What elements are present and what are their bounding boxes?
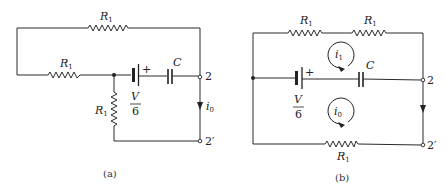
label-b-loop-i0: i0 [334,105,342,119]
label-b-plus: + [305,66,314,79]
caption-a: (a) [103,168,117,179]
label-b-source-numerator: V [294,93,303,106]
label-b-r1-top-left: R1 [299,14,313,28]
current-arrow-b [420,105,426,113]
loop-arrowhead-b-i1 [338,66,345,72]
resistor-b-top-left [288,30,322,36]
label-a-r1-left: R1 [59,57,73,71]
resistor-a-top [88,25,128,31]
current-arrow-a-i0 [197,102,203,110]
wire-b-top-right [386,33,423,78]
terminal-a-2 [198,75,202,79]
label-a-plus: + [142,63,151,76]
loop-arrowhead-b-i0 [338,122,345,128]
label-b-loop-i1: i1 [335,48,343,62]
label-b-r1-bottom: R1 [336,150,350,164]
circuit-figure: R1 R1 R1 + V 6 C 2 2′ i0 (a) [0,0,446,190]
label-a-source-denominator: 6 [132,105,139,118]
battery-a-negative-plate [132,68,135,82]
wire-a-left-loop [17,28,88,75]
label-b-capacitor: C [366,59,375,72]
label-a-r1-vertical: R1 [94,104,108,118]
circuit-a: R1 R1 R1 + V 6 C 2 2′ i0 (a) [17,10,215,179]
label-a-terminal-2: 2 [205,70,212,83]
wire-b-cap-terminal [363,79,421,80]
caption-b: (b) [335,172,349,183]
terminal-b-2prime [421,143,425,147]
battery-b-negative-plate [295,71,298,85]
resistor-a-vertical [111,92,117,126]
label-b-source-denominator: 6 [295,108,302,121]
wire-b-left [253,33,325,144]
wire-a-bottom [114,126,198,141]
label-a-current-i0: i0 [206,100,214,114]
label-b-r1-top-right: R1 [363,14,377,28]
label-a-source-numerator: V [131,90,140,103]
terminal-a-2prime [198,139,202,143]
label-a-r1-top: R1 [99,10,113,24]
resistor-b-bottom [325,141,358,147]
resistor-b-top-right [352,30,386,36]
label-b-terminal-2: 2 [427,74,434,87]
resistor-a-left [48,72,80,78]
label-b-terminal-2prime: 2′ [427,139,437,152]
label-a-terminal-2prime: 2′ [205,135,215,148]
terminal-b-2 [421,78,425,82]
circuit-b: R1 R1 R1 i1 i0 + V 6 C 2 2′ (b) [251,14,437,183]
wire-b-bottom-right [358,144,421,145]
label-a-capacitor: C [173,56,182,69]
